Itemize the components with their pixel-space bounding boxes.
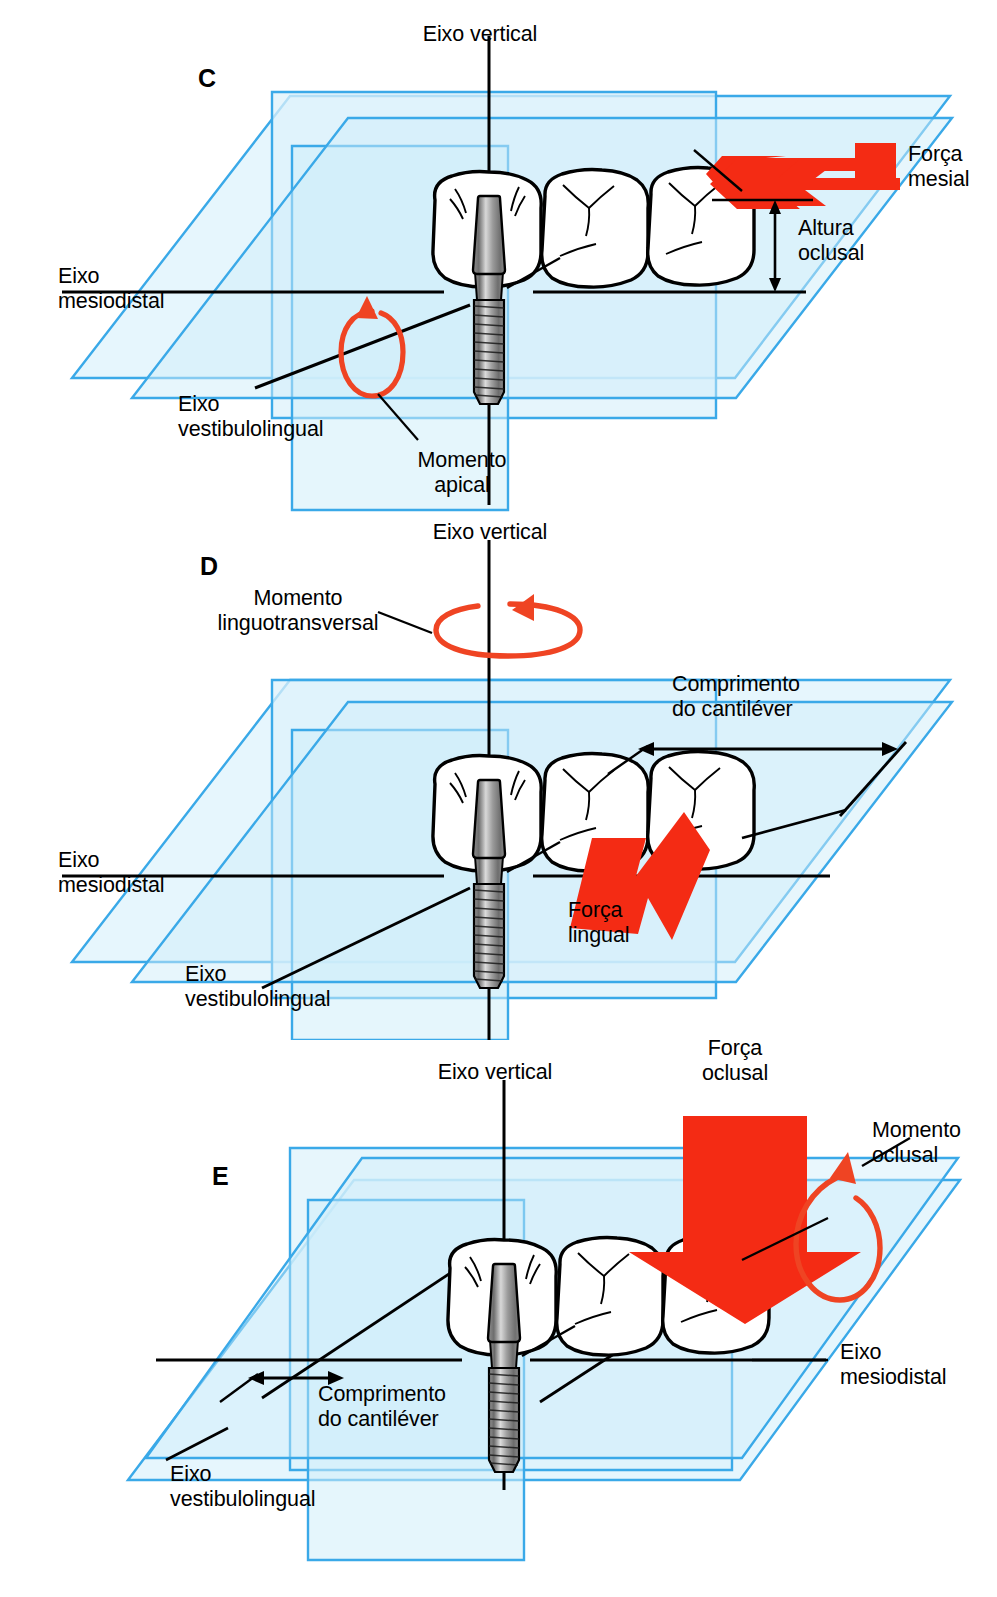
label-cantilever-length-d: Comprimento do cantiléver bbox=[672, 672, 902, 722]
label-lingual-force-d: Força lingual bbox=[568, 898, 718, 948]
pontic-tooth-c bbox=[542, 170, 649, 288]
label-mesiodistal-axis-d: Eixo mesiodistal bbox=[58, 848, 228, 898]
label-vertical-axis-d: Eixo vertical bbox=[390, 520, 590, 545]
panel-letter-e: E bbox=[212, 1162, 229, 1191]
label-occlusal-force-e: Força oclusal bbox=[655, 1036, 815, 1086]
panel-e: E Eixo vertical Força oclusal Momento oc… bbox=[0, 1030, 997, 1597]
panel-c: C Eixo vertical Eixo mesiodistal Eixo ve… bbox=[0, 0, 997, 530]
implant-fixture-e bbox=[488, 1264, 520, 1472]
label-cantilever-length-e: Comprimento do cantiléver bbox=[318, 1382, 558, 1432]
implant-fixture-c bbox=[473, 196, 505, 404]
label-vertical-axis-c: Eixo vertical bbox=[380, 22, 580, 47]
label-linguotransverse-moment-d: Momento linguotransversal bbox=[168, 586, 428, 636]
label-vertical-axis-e: Eixo vertical bbox=[385, 1060, 605, 1085]
label-apical-moment-c: Momento apical bbox=[372, 448, 552, 498]
label-buccolingual-axis-c: Eixo vestibulolingual bbox=[178, 392, 408, 442]
label-mesiodistal-axis-e: Eixo mesiodistal bbox=[840, 1340, 997, 1390]
panel-letter-c: C bbox=[198, 64, 216, 93]
label-occlusal-height-c: Altura oclusal bbox=[798, 216, 938, 266]
biomechanics-figure: C Eixo vertical Eixo mesiodistal Eixo ve… bbox=[0, 0, 997, 1597]
panel-d: D Eixo vertical Momento linguotransversa… bbox=[0, 520, 997, 1040]
linguotransverse-moment-arrow-d bbox=[436, 594, 580, 656]
label-occlusal-moment-e: Momento oclusal bbox=[872, 1118, 997, 1168]
implant-fixture-d bbox=[473, 780, 505, 988]
label-buccolingual-axis-e: Eixo vestibulolingual bbox=[170, 1462, 400, 1512]
panel-letter-d: D bbox=[200, 552, 218, 581]
label-mesiodistal-axis-c: Eixo mesiodistal bbox=[58, 264, 218, 314]
label-buccolingual-axis-d: Eixo vestibulolingual bbox=[185, 962, 415, 1012]
label-mesial-force-c: Força mesial bbox=[908, 142, 997, 192]
